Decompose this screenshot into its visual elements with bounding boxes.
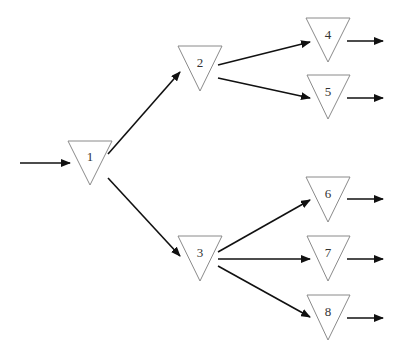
node-label: 5 <box>325 84 332 99</box>
node-1: 1 <box>68 141 112 185</box>
node-label: 2 <box>197 55 204 70</box>
node-label: 8 <box>325 304 332 319</box>
node-label: 7 <box>325 245 332 260</box>
edge-3-6 <box>218 200 310 252</box>
node-label: 3 <box>197 245 204 260</box>
node-3: 3 <box>178 236 222 281</box>
edge-2-4 <box>218 42 310 65</box>
node-8: 8 <box>307 295 350 340</box>
node-label: 4 <box>325 27 332 42</box>
node-5: 5 <box>307 75 350 119</box>
node-4: 4 <box>306 18 350 62</box>
edge-3-8 <box>218 266 310 317</box>
edge-1-3 <box>108 178 180 256</box>
node-7: 7 <box>307 236 350 281</box>
node-label: 1 <box>87 149 94 164</box>
node-6: 6 <box>306 177 350 222</box>
edge-1-2 <box>108 72 180 154</box>
node-label: 6 <box>325 186 332 201</box>
node-2: 2 <box>178 46 222 91</box>
edge-2-5 <box>218 78 310 98</box>
tree-diagram: 1 2 3 4 5 6 7 8 <box>0 0 404 359</box>
